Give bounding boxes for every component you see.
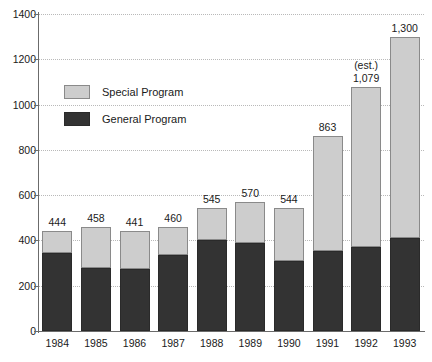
gridline-1400 xyxy=(38,14,424,15)
bar-value-label-1990: 544 xyxy=(265,194,313,205)
bar-1984[interactable] xyxy=(42,231,72,332)
bar-segment-special-1992[interactable] xyxy=(351,87,381,248)
y-tick-mark-800 xyxy=(34,150,38,151)
y-tick-mark-200 xyxy=(34,286,38,287)
y-tick-label-1000: 1000 xyxy=(2,100,36,110)
y-tick-label-400: 400 xyxy=(2,235,36,245)
x-tick-label-1993: 1993 xyxy=(381,338,429,349)
bar-1988[interactable] xyxy=(197,208,227,331)
stacked-bar-chart: 0200400600800100012001400 19841985198619… xyxy=(0,0,432,362)
bar-segment-special-1993[interactable] xyxy=(390,37,420,238)
bar-segment-general-1988[interactable] xyxy=(197,240,227,331)
bar-segment-special-1984[interactable] xyxy=(42,231,72,253)
bar-segment-special-1988[interactable] xyxy=(197,208,227,241)
bar-1991[interactable] xyxy=(313,136,343,331)
bar-1993[interactable] xyxy=(390,37,420,331)
bar-annotation-1992: (est.) xyxy=(342,60,390,71)
bar-segment-general-1991[interactable] xyxy=(313,251,343,331)
y-tick-mark-600 xyxy=(34,195,38,196)
bar-segment-special-1989[interactable] xyxy=(235,202,265,243)
bar-segment-special-1991[interactable] xyxy=(313,136,343,251)
y-tick-label-800: 800 xyxy=(2,145,36,155)
bar-value-label-1993: 1,300 xyxy=(381,23,429,34)
bar-segment-general-1989[interactable] xyxy=(235,243,265,331)
y-axis-ticks: 0200400600800100012001400 xyxy=(0,0,36,362)
bar-segment-special-1985[interactable] xyxy=(81,227,111,268)
bar-segment-special-1990[interactable] xyxy=(274,208,304,261)
y-tick-mark-1400 xyxy=(34,14,38,15)
y-tick-mark-400 xyxy=(34,240,38,241)
legend-label-special-program: Special Program xyxy=(102,86,183,98)
y-tick-label-600: 600 xyxy=(2,190,36,200)
bar-1990[interactable] xyxy=(274,208,304,331)
bar-segment-general-1987[interactable] xyxy=(158,255,188,331)
y-tick-mark-1000 xyxy=(34,105,38,106)
bar-segment-general-1993[interactable] xyxy=(390,238,420,332)
bar-value-label-1987: 460 xyxy=(149,213,197,224)
bar-value-label-1991: 863 xyxy=(304,122,352,133)
bar-segment-general-1985[interactable] xyxy=(81,268,111,331)
y-tick-label-0: 0 xyxy=(2,326,36,336)
bar-segment-special-1987[interactable] xyxy=(158,227,188,255)
legend-swatch-special-program xyxy=(64,85,90,99)
bar-segment-special-1986[interactable] xyxy=(120,231,150,269)
bar-1992[interactable] xyxy=(351,87,381,331)
x-axis-line xyxy=(38,331,425,332)
bar-segment-general-1984[interactable] xyxy=(42,253,72,331)
bar-1987[interactable] xyxy=(158,227,188,331)
bar-segment-general-1992[interactable] xyxy=(351,247,381,331)
y-tick-mark-1200 xyxy=(34,59,38,60)
y-axis-line xyxy=(38,12,39,333)
bar-segment-general-1990[interactable] xyxy=(274,261,304,331)
bar-value-label-1992: 1,079 xyxy=(342,73,390,84)
y-tick-label-1200: 1200 xyxy=(2,54,36,64)
y-tick-label-1400: 1400 xyxy=(2,9,36,19)
legend-label-general-program: General Program xyxy=(102,113,186,125)
legend-swatch-general-program xyxy=(64,112,90,126)
bar-segment-general-1986[interactable] xyxy=(120,269,150,331)
bar-1989[interactable] xyxy=(235,202,265,331)
bar-1985[interactable] xyxy=(81,227,111,331)
bar-1986[interactable] xyxy=(120,231,150,331)
y-tick-label-200: 200 xyxy=(2,281,36,291)
y-tick-mark-0 xyxy=(34,331,38,332)
